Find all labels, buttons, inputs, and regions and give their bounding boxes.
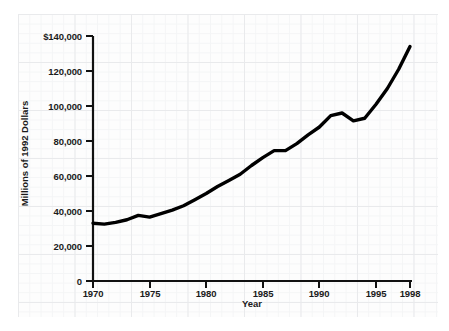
x-axis-title: Year xyxy=(93,298,411,309)
y-tick-label-0: $140,000 xyxy=(20,31,82,42)
data-series-line xyxy=(93,47,410,225)
y-tick-label-1: 120,000 xyxy=(20,66,82,77)
y-tick-label-7: 0 xyxy=(20,276,82,287)
chart-figure: $140,000120,000100,00080,00060,00040,000… xyxy=(0,0,449,331)
y-axis-title: Millions of 1992 Dollars xyxy=(19,94,30,214)
y-tick-label-6: 20,000 xyxy=(20,241,82,252)
